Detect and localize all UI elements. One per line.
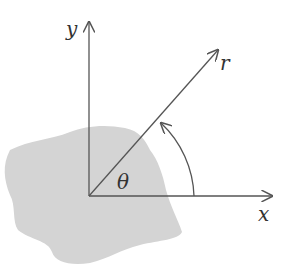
angle-arc xyxy=(161,123,194,196)
polar-coordinate-diagram: y x r θ xyxy=(0,0,283,266)
shaded-region xyxy=(5,126,182,264)
radius-label: r xyxy=(220,51,231,75)
x-axis-label: x xyxy=(258,202,269,226)
angle-label: θ xyxy=(117,170,129,194)
y-axis-label: y xyxy=(65,17,78,41)
